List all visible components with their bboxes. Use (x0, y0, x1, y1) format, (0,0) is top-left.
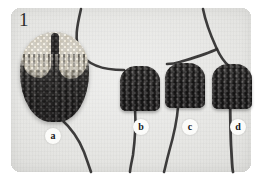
swatch-c-body (165, 63, 205, 108)
plate-corner-bottom-right (242, 163, 251, 172)
swatch-d-body (212, 64, 252, 109)
figure-number: 1 (19, 10, 29, 29)
knitted-swatch-c (165, 63, 205, 108)
swatch-a-body (20, 32, 89, 122)
callout-label-b: b (133, 119, 149, 135)
plate-corner-bottom-left (11, 163, 20, 172)
callout-label-a: a (45, 128, 61, 144)
callout-label-c: c (182, 119, 198, 135)
knitted-swatch-b (120, 66, 160, 111)
swatch-b-body (120, 66, 160, 111)
swatch-d-stitch-bumps (212, 64, 252, 109)
swatch-c-stitch-bumps (165, 63, 205, 108)
figure-image: a b c d 1 (0, 0, 262, 186)
swatch-a-stitch-bumps (20, 32, 89, 122)
knitted-swatch-a (20, 32, 89, 122)
callout-label-d: d (230, 119, 246, 135)
knitted-swatch-d (212, 64, 252, 109)
plate-corner-top-left (11, 8, 20, 17)
plate-corner-top-right (242, 8, 251, 17)
swatch-b-stitch-bumps (120, 66, 160, 111)
